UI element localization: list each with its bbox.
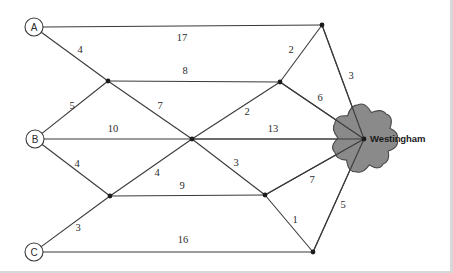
edge-weight-e-n1-n3: 7 — [157, 101, 162, 112]
edge-weight-e-n5-n7: 1 — [292, 215, 297, 226]
edge-weight-e-n3-n5: 3 — [233, 158, 238, 169]
graph-edge — [265, 195, 313, 252]
edge-weight-e-b-n3: 10 — [108, 124, 119, 135]
edge-weight-e-n2-n3: 4 — [154, 168, 159, 179]
edge-weight-e-n2-n5: 9 — [179, 181, 184, 192]
edge-weight-e-b-n2: 4 — [74, 159, 79, 170]
edge-weight-e-n4-hub: 6 — [317, 93, 322, 104]
edge-weight-e-n5-hub: 7 — [309, 175, 314, 186]
edge-weight-e-a-n6: 17 — [177, 33, 188, 44]
westingham-center-node — [362, 137, 367, 142]
graph-edge — [41, 32, 108, 81]
edge-weight-e-n6-hub: 3 — [348, 71, 353, 82]
westingham-label: Westingham — [370, 134, 425, 144]
edge-weight-e-a-n1: 4 — [77, 45, 82, 56]
graph-edge — [192, 139, 265, 195]
junction-node — [311, 250, 316, 255]
graph-edge — [43, 25, 322, 27]
graph-edge — [42, 81, 108, 133]
edge-weight-e-n3-n4: 2 — [244, 107, 249, 118]
terminal-label-c: C — [30, 247, 37, 258]
graph-edge — [280, 25, 322, 82]
terminal-label-a: A — [31, 22, 38, 33]
junction-node — [278, 80, 283, 85]
terminal-label-b: B — [32, 134, 39, 145]
edge-weight-e-n3-hub: 13 — [268, 124, 279, 135]
edge-weight-e-n1-n4: 8 — [182, 66, 187, 77]
junction-node — [263, 193, 268, 198]
junction-node — [190, 137, 195, 142]
graph-edge — [42, 144, 110, 196]
edge-weight-e-n4-n6: 2 — [288, 45, 293, 56]
junction-node — [106, 79, 111, 84]
graph-edge — [110, 195, 265, 196]
edge-weight-e-b-n1: 5 — [69, 101, 74, 112]
junction-node — [320, 23, 325, 28]
junction-node — [108, 194, 113, 199]
edge-weight-e-c-n7: 16 — [178, 235, 189, 246]
graph-edge — [108, 81, 280, 82]
edge-weight-e-c-n2: 3 — [75, 223, 80, 234]
edge-weight-e-n7-hub: 5 — [340, 200, 345, 211]
graph-edge — [108, 81, 192, 139]
diagram-canvas: ABC 174857101344931623263715 Westingham — [0, 0, 453, 273]
